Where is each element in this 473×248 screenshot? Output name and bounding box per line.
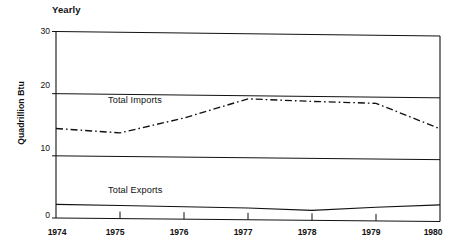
series-line-total-imports xyxy=(56,99,440,133)
y-tick-marks xyxy=(52,32,56,219)
plot-area xyxy=(0,0,473,248)
gridline-20 xyxy=(56,94,440,98)
x-tick-marks xyxy=(120,212,376,221)
gridlines xyxy=(56,94,440,160)
frame-top-line xyxy=(56,32,440,37)
chart-figure: Yearly Quadrillion Btu 30 20 10 0 1974 1… xyxy=(0,0,473,248)
series-line-total-exports xyxy=(56,204,440,210)
axis-frame xyxy=(56,32,440,222)
gridline-10 xyxy=(56,156,440,160)
